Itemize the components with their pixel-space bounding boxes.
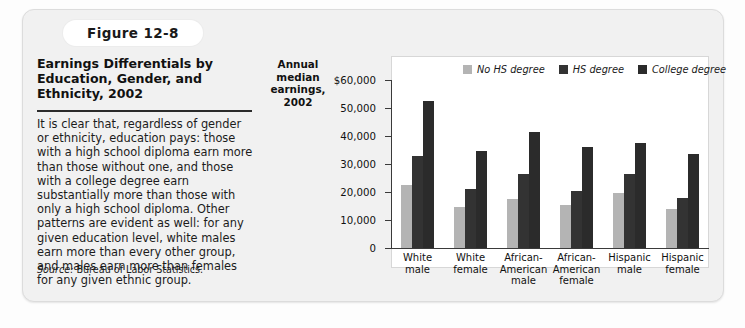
- x-axis-label: Hispanicmale: [603, 252, 656, 275]
- bar: [582, 147, 593, 248]
- x-axis-label-line: American: [550, 264, 603, 276]
- x-axis-label-line: African-: [550, 252, 603, 264]
- y-tick-label: 50,000: [340, 103, 376, 114]
- bar-group: [497, 80, 550, 248]
- y-tick-label: 30,000: [340, 159, 376, 170]
- source-label: Source:: [37, 264, 73, 275]
- y-tick-label: 0: [370, 243, 376, 254]
- bar: [507, 199, 518, 248]
- x-axis-label-line: female: [656, 264, 709, 276]
- x-axis-label-line: White: [444, 252, 497, 264]
- bar-group: [603, 80, 656, 248]
- x-axis-label: Whitefemale: [444, 252, 497, 275]
- figure-panel: Figure 12-8 Earnings Differentials by Ed…: [22, 9, 724, 302]
- chart-legend: No HS degreeHS degreeCollege degree: [463, 64, 726, 75]
- bar: [624, 174, 635, 248]
- y-axis-title: Annual median earnings, 2002: [267, 58, 329, 108]
- figure-text-column: Figure 12-8 Earnings Differentials by Ed…: [35, 20, 263, 288]
- bar: [423, 101, 434, 248]
- x-axis-label-line: male: [603, 264, 656, 276]
- bar: [560, 205, 571, 248]
- legend-label: College degree: [652, 64, 726, 75]
- legend-item-0: No HS degree: [463, 64, 545, 75]
- x-axis-label-line: female: [444, 264, 497, 276]
- bar: [476, 151, 487, 248]
- legend-item-2: College degree: [638, 64, 726, 75]
- bar-group: [656, 80, 709, 248]
- x-axis-label-line: female: [550, 275, 603, 287]
- bar: [401, 185, 412, 248]
- x-axis-label-line: White: [391, 252, 444, 264]
- x-axis-label: African-Americanmale: [497, 252, 550, 287]
- legend-item-1: HS degree: [559, 64, 624, 75]
- title-divider: [37, 110, 252, 112]
- x-axis-label-line: male: [497, 275, 550, 287]
- figure-page: Figure 12-8 Earnings Differentials by Ed…: [0, 0, 745, 328]
- x-axis-label-line: Hispanic: [603, 252, 656, 264]
- bar-group: [550, 80, 603, 248]
- bar: [412, 156, 423, 248]
- y-tick-label: 10,000: [340, 215, 376, 226]
- x-axis-label-line: African-: [497, 252, 550, 264]
- y-tick: 0: [385, 248, 392, 249]
- legend-swatch-icon: [559, 65, 568, 74]
- plot-region: $60,00050,00040,00030,00020,00010,0000 W…: [391, 56, 709, 268]
- chart-area: Annual median earnings, 2002 No HS degre…: [263, 18, 715, 296]
- source-text: Bureau of Labor Statistics.: [73, 264, 203, 275]
- bar: [518, 174, 529, 248]
- figure-number-tab: Figure 12-8: [63, 20, 203, 46]
- x-axis-line: [391, 248, 709, 249]
- x-axis-label: Whitemale: [391, 252, 444, 275]
- legend-swatch-icon: [638, 65, 647, 74]
- bar: [677, 198, 688, 248]
- figure-title: Earnings Differentials by Education, Gen…: [37, 56, 255, 102]
- legend-label: No HS degree: [477, 64, 545, 75]
- bar: [666, 209, 677, 248]
- x-axis-label-line: Hispanic: [656, 252, 709, 264]
- bar-group: [444, 80, 497, 248]
- bar-group: [391, 80, 444, 248]
- bar: [688, 154, 699, 248]
- figure-source: Source: Bureau of Labor Statistics.: [37, 264, 257, 275]
- figure-number-label: Figure 12-8: [87, 25, 179, 41]
- y-tick-label: 40,000: [340, 131, 376, 142]
- bar: [529, 132, 540, 248]
- x-axis-label-line: American: [497, 264, 550, 276]
- legend-swatch-icon: [463, 65, 472, 74]
- x-axis-label: African-Americanfemale: [550, 252, 603, 287]
- bar: [571, 191, 582, 248]
- bar: [454, 207, 465, 248]
- y-tick-label: 20,000: [340, 187, 376, 198]
- y-tick-label: $60,000: [334, 75, 376, 86]
- figure-body-text: It is clear that, regardless of gender o…: [37, 117, 253, 287]
- legend-label: HS degree: [573, 64, 624, 75]
- bar: [613, 193, 624, 248]
- bar: [635, 143, 646, 248]
- x-axis-label: Hispanicfemale: [656, 252, 709, 275]
- x-axis-label-line: male: [391, 264, 444, 276]
- bar: [465, 189, 476, 248]
